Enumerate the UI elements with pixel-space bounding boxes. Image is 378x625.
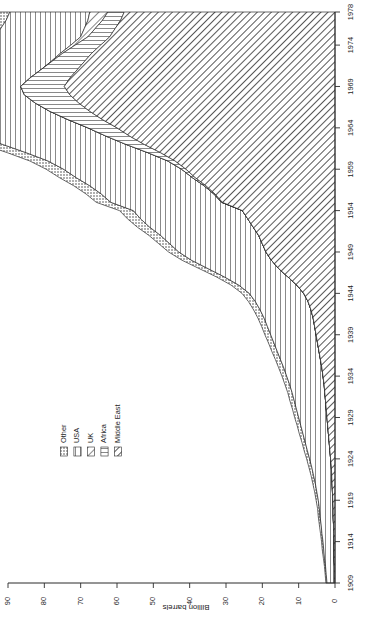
year-tick-label: 1954 xyxy=(346,202,355,218)
value-tick-label: 70 xyxy=(76,597,85,605)
legend-swatch xyxy=(74,447,81,456)
year-tick-label: 1934 xyxy=(346,368,355,384)
plot-area: 1909191419191924192919341939194419491954… xyxy=(0,0,378,625)
value-tick-label: 50 xyxy=(148,597,157,605)
legend-item-uk: UK xyxy=(86,433,95,456)
legend-label: Africa xyxy=(99,423,108,443)
legend-label: Other xyxy=(59,424,68,443)
legend-swatch xyxy=(60,447,67,456)
stacked-areas xyxy=(0,12,335,583)
value-tick-label: 80 xyxy=(39,597,48,605)
year-tick-label: 1939 xyxy=(346,327,355,343)
value-tick-label: 60 xyxy=(112,597,121,605)
year-tick-label: 1978 xyxy=(346,4,355,20)
legend-swatch xyxy=(87,447,94,456)
year-tick-label: 1959 xyxy=(346,161,355,177)
legend-label: Middle East xyxy=(113,404,122,443)
legend-item-middle-east: Middle East xyxy=(113,404,122,456)
value-axis-title: Billion barrels xyxy=(163,603,210,612)
legend-swatch xyxy=(101,447,108,456)
legend: OtherUSAUKAfricaMiddle East xyxy=(59,404,122,456)
value-tick-label: 90 xyxy=(3,597,12,605)
value-tick-label: 0 xyxy=(330,599,339,603)
year-tick-label: 1909 xyxy=(346,575,355,591)
year-tick-label: 1929 xyxy=(346,409,355,425)
year-tick-label: 1944 xyxy=(346,285,355,301)
year-tick-label: 1964 xyxy=(346,120,355,136)
value-tick-label: 30 xyxy=(221,597,230,605)
figure-canvas: 1909191419191924192919341939194419491954… xyxy=(0,0,378,625)
legend-item-usa: USA xyxy=(72,428,81,456)
value-axis: 0102030405060708090Billion barrels xyxy=(3,583,339,612)
year-tick-label: 1919 xyxy=(346,492,355,508)
year-tick-label: 1914 xyxy=(346,533,355,549)
year-tick-label: 1969 xyxy=(346,78,355,94)
value-tick-label: 20 xyxy=(257,597,266,605)
year-axis: 1909191419191924192919341939194419491954… xyxy=(335,4,355,591)
legend-swatch xyxy=(114,447,121,456)
legend-item-africa: Africa xyxy=(99,423,108,456)
value-tick-label: 10 xyxy=(294,597,303,605)
year-tick-label: 1924 xyxy=(346,451,355,467)
chart-svg: 1909191419191924192919341939194419491954… xyxy=(0,0,378,625)
legend-label: UK xyxy=(86,433,95,443)
legend-item-other: Other xyxy=(59,424,68,456)
legend-label: USA xyxy=(72,428,81,443)
year-tick-label: 1974 xyxy=(346,37,355,53)
year-tick-label: 1949 xyxy=(346,244,355,260)
